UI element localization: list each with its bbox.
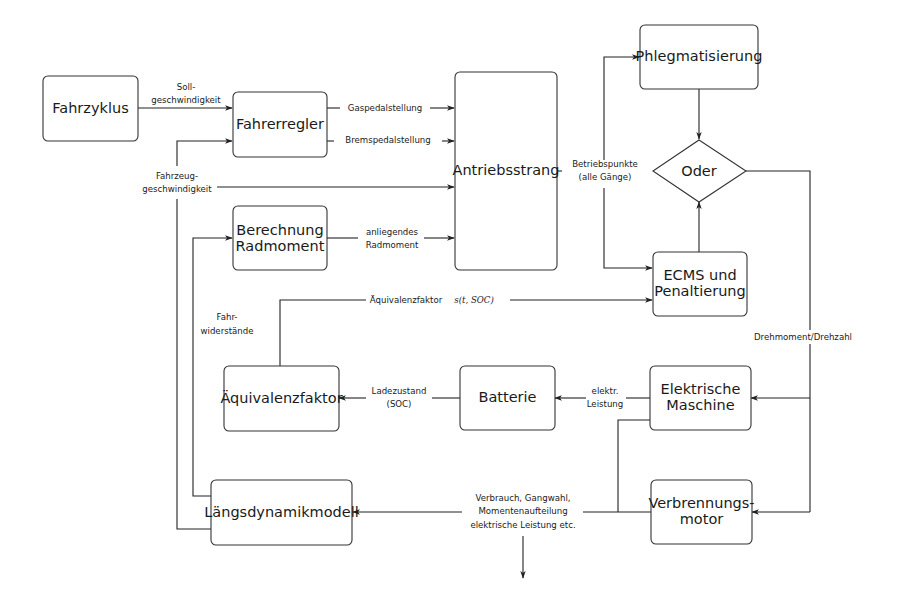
label-elektr-line1: elektr. — [592, 386, 619, 396]
node-aequivalenzfaktor: Äquivalenzfaktor — [220, 366, 342, 431]
label-verbrauch-line3: elektrische Leistung etc. — [470, 520, 575, 530]
label-ladezustand: Ladezustand (SOC) — [372, 386, 427, 409]
label-radmoment-line1: anliegendes — [366, 227, 419, 237]
label-elektr-line2: Leistung — [587, 399, 624, 409]
node-em-line1: Elektrische — [661, 381, 741, 397]
label-fahrw-line2: widerstände — [201, 326, 254, 336]
node-batterie: Batterie — [460, 366, 555, 430]
label-drehmoment-drehzahl: Drehmoment/Drehzahl — [754, 332, 852, 342]
label-verbrauch: Verbrauch, Gangwahl, Momentenaufteilung … — [470, 493, 575, 530]
label-betriebspunkte-line2: (alle Gänge) — [579, 172, 632, 182]
label-aequivalenzfaktor-signal: Äquivalenzfaktor s(t, SOC) — [370, 295, 494, 305]
node-ecms-line1: ECMS und — [663, 267, 736, 283]
node-batterie-label: Batterie — [478, 389, 536, 405]
label-aeq-math: s(t, SOC) — [454, 295, 494, 305]
node-vm-line1: Verbrennungs- — [648, 495, 754, 511]
node-em-line2: Maschine — [666, 397, 734, 413]
label-gaspedalstellung: Gaspedalstellung — [348, 103, 423, 113]
label-aeq-text: Äquivalenzfaktor — [370, 295, 443, 305]
label-ladezustand-line2: (SOC) — [387, 399, 412, 409]
edge-to-ecms — [604, 188, 652, 268]
node-phlegmatisierung: Phlegmatisierung — [636, 25, 763, 89]
label-fahrw-line1: Fahr- — [217, 312, 238, 322]
label-fzg-line1: Fahrzeug- — [156, 171, 198, 181]
edge-em-junction — [618, 420, 650, 512]
label-sollgeschwindigkeit: Soll- geschwindigkeit — [151, 82, 221, 105]
label-betriebspunkte-line1: Betriebspunkte — [572, 159, 638, 169]
node-ecms: ECMS und Penaltierung — [653, 252, 747, 316]
node-vm-line2: motor — [680, 511, 724, 527]
node-antriebsstrang: Antriebsstrang — [453, 72, 560, 270]
label-radmoment-line2: Radmoment — [366, 240, 419, 250]
label-verbrauch-line2: Momentenaufteilung — [478, 506, 567, 516]
label-soll-line1: Soll- — [177, 82, 196, 92]
label-soll-line2: geschwindigkeit — [151, 95, 221, 105]
node-laengsdynamik-label: Längsdynamikmodell — [204, 504, 359, 520]
label-elektr-leistung: elektr. Leistung — [587, 386, 624, 409]
label-ladezustand-line1: Ladezustand — [372, 386, 427, 396]
node-fahrzyklus-label: Fahrzyklus — [52, 100, 128, 116]
node-aequivalenzfaktor-label: Äquivalenzfaktor — [220, 389, 342, 406]
node-fahrerregler: Fahrerregler — [233, 92, 327, 157]
node-laengsdynamikmodell: Längsdynamikmodell — [204, 480, 359, 545]
node-oder-label: Oder — [681, 163, 717, 179]
label-fzg-line2: geschwindigkeit — [142, 184, 212, 194]
edge-aeq-signal-a — [280, 300, 366, 366]
node-verbrennungsmotor: Verbrennungs- motor — [648, 480, 754, 544]
edge-oder-out-a — [746, 171, 810, 330]
node-phlegmatisierung-label: Phlegmatisierung — [636, 48, 763, 64]
label-fahrzeuggeschwindigkeit: Fahrzeug- geschwindigkeit — [142, 171, 212, 194]
edge-to-phlegmatisierung — [604, 57, 639, 160]
label-betriebspunkte: Betriebspunkte (alle Gänge) — [572, 159, 638, 182]
node-berechnung-radmoment: Berechnung Radmoment — [233, 206, 327, 270]
node-fahrzyklus: Fahrzyklus — [43, 76, 138, 141]
ecms-block-diagram: Fahrzyklus Fahrerregler Berechnung Radmo… — [0, 0, 902, 605]
node-berechnung-line2: Radmoment — [236, 238, 325, 254]
node-fahrerregler-label: Fahrerregler — [236, 116, 324, 132]
edge-vfzg-loop-a — [177, 199, 211, 529]
node-antriebsstrang-label: Antriebsstrang — [453, 162, 560, 178]
node-oder: Oder — [653, 140, 746, 202]
node-ecms-line2: Penaltierung — [654, 283, 745, 299]
edge-vfzg-loop-b — [177, 141, 232, 166]
label-anliegendes-radmoment: anliegendes Radmoment — [366, 227, 419, 250]
node-berechnung-line1: Berechnung — [236, 222, 323, 238]
label-fahrwiderstaende: Fahr- widerstände — [201, 312, 254, 336]
label-bremspedalstellung: Bremspedalstellung — [345, 135, 430, 145]
label-verbrauch-line1: Verbrauch, Gangwahl, — [475, 493, 570, 503]
node-elektrische-maschine: Elektrische Maschine — [650, 366, 751, 430]
